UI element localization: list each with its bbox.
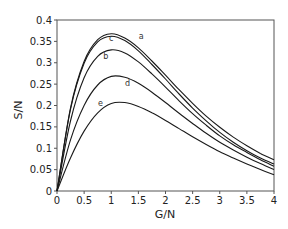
series-label-a: a (139, 32, 144, 41)
y-tick-label: 0.35 (30, 36, 52, 47)
series-label-b: b (103, 52, 108, 61)
x-tick-label: 0 (54, 195, 60, 206)
x-tick-label: 1.5 (130, 195, 146, 206)
y-tick-label: 0.15 (30, 121, 52, 132)
x-tick-label: 0.5 (76, 195, 92, 206)
y-axis-label: S/N (12, 101, 25, 120)
series-label-e: e (98, 99, 103, 108)
data-series (57, 34, 274, 191)
series-label-c: c (109, 34, 113, 43)
x-axis-label: G/N (155, 208, 175, 221)
x-tick-label: 2 (162, 195, 168, 206)
y-tick-label: 0.3 (36, 57, 52, 68)
y-tick-label: 0.05 (30, 164, 52, 175)
x-tick-label: 1 (108, 195, 114, 206)
y-tick-label: 0.1 (36, 143, 52, 154)
x-tick-label: 3 (217, 195, 223, 206)
y-tick-label: 0 (46, 186, 52, 197)
x-tick-label: 4 (271, 195, 277, 206)
series-labels: acbde (98, 32, 144, 107)
x-tick-label: 2.5 (185, 195, 201, 206)
y-axis: 00.050.10.150.20.250.30.350.4 (30, 15, 57, 197)
series-line-a (57, 34, 274, 191)
series-label-d: d (125, 79, 130, 88)
series-line-d (57, 76, 274, 191)
y-tick-label: 0.4 (36, 15, 52, 26)
y-tick-label: 0.25 (30, 79, 52, 90)
x-axis: 00.511.522.533.54 (54, 191, 277, 206)
line-chart: 00.050.10.150.20.250.30.350.4 00.511.522… (0, 0, 288, 229)
series-line-c (57, 36, 274, 191)
plot-area (57, 20, 274, 191)
x-tick-label: 3.5 (239, 195, 255, 206)
y-tick-label: 0.2 (36, 100, 52, 111)
plot-border (57, 20, 274, 191)
series-line-e (57, 102, 274, 191)
